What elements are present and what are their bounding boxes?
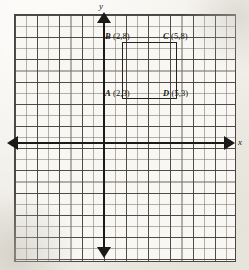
vertex-letter-c: C — [163, 31, 169, 41]
vertex-letter-b: B — [105, 31, 111, 41]
vertex-coords-a: (2,3) — [113, 88, 130, 98]
y-axis-arrow-up-icon — [97, 12, 111, 23]
vertex-label-c: C (5,8) — [163, 32, 188, 41]
y-axis-arrow-down-icon — [97, 247, 111, 258]
vertex-coords-d: (5,3) — [171, 88, 188, 98]
vertex-letter-a: A — [105, 88, 111, 98]
y-axis-label: y — [99, 2, 103, 11]
y-axis-line — [103, 20, 105, 254]
vertex-label-b: B (2,8) — [105, 32, 130, 41]
vertex-label-a: A (2,3) — [105, 89, 130, 98]
x-axis-arrow-right-icon — [224, 136, 235, 150]
vertex-coords-b: (2,8) — [113, 31, 130, 41]
x-axis-arrow-left-icon — [7, 136, 18, 150]
x-axis-label: x — [238, 138, 242, 147]
vertex-coords-c: (5,8) — [171, 31, 188, 41]
coordinate-plane-figure: y x B (2,8) C (5,8) A (2,3) D (5,3) — [0, 0, 249, 270]
x-axis-line — [16, 142, 228, 144]
vertex-label-d: D (5,3) — [163, 89, 188, 98]
